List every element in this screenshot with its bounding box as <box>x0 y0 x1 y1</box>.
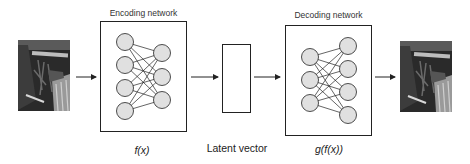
encoder-title: Encoding network <box>100 8 187 18</box>
decoder-function-label: g(f(x)) <box>299 143 359 155</box>
encoder-box <box>101 22 187 132</box>
latent-vector-box <box>223 45 251 113</box>
latent-vector-label: Latent vector <box>196 142 278 154</box>
encoder-function-label: f(x) <box>112 144 172 156</box>
decoder-box <box>286 26 372 136</box>
decoder-title: Decoding network <box>285 10 372 20</box>
photo-icon <box>400 41 452 112</box>
output-image <box>400 41 452 112</box>
